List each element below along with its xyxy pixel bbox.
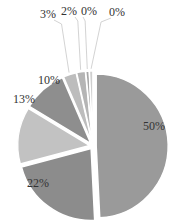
slice-label: 13%: [13, 92, 35, 106]
leader-line: [75, 17, 81, 70]
leader-line: [83, 17, 87, 69]
pie-chart: 50%22%13%10%3%2%0%0%: [0, 0, 190, 220]
pie-slices: [18, 71, 168, 220]
slice-label: 22%: [27, 176, 49, 190]
pie-slice: [96, 74, 168, 218]
slice-label: 3%: [40, 7, 56, 21]
slice-label: 50%: [143, 119, 165, 133]
slice-label: 2%: [61, 4, 77, 18]
leader-line: [54, 20, 69, 73]
slice-label: 0%: [81, 4, 97, 18]
slice-label: 10%: [38, 73, 60, 87]
leader-line: [91, 18, 111, 69]
leader-lines: [54, 17, 111, 73]
slice-label: 0%: [109, 5, 125, 19]
